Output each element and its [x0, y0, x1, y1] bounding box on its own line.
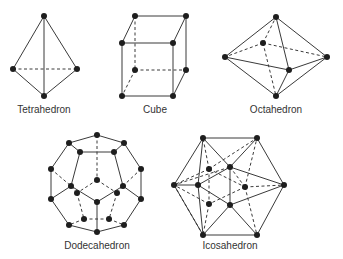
dodecahedron-figure: [48, 132, 144, 235]
platonic-solids-diagram: [0, 0, 343, 259]
icosahedron-figure: [171, 135, 287, 238]
tetrahedron-label: Tetrahedron: [4, 104, 84, 115]
icosahedron-label: Icosahedron: [185, 240, 275, 251]
octahedron-figure: [222, 14, 330, 99]
octahedron-label: Octahedron: [236, 104, 316, 115]
tetrahedron-figure: [10, 13, 80, 99]
cube-label: Cube: [115, 104, 195, 115]
cube-figure: [119, 13, 189, 99]
dodecahedron-label: Dodecahedron: [52, 240, 142, 251]
